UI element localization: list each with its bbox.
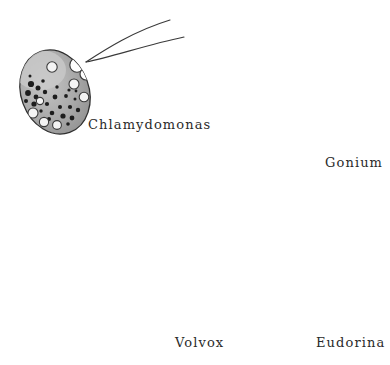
label-gonium: Gonium — [325, 156, 383, 169]
label-chlamydomonas: Chlamydomonas — [88, 118, 211, 131]
volvocine-algae-figure — [0, 0, 390, 365]
label-volvox: Volvox — [175, 336, 224, 349]
label-eudorina: Eudorina — [316, 336, 385, 349]
